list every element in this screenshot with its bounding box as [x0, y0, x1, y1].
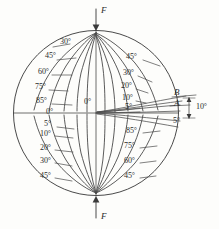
isoclinic-label-lr-45: 45° — [124, 172, 135, 180]
isoclinic-label-ll-10: 10° — [40, 130, 51, 138]
isoclinic-label-lr-75: 75° — [124, 142, 135, 150]
isoclinic-label-ll-5: 5° — [44, 120, 51, 128]
isoclinic-label-ur-20: 20° — [121, 82, 132, 90]
force-label-top: F — [101, 6, 106, 15]
isoclinic-label-ul-85: 85° — [36, 97, 47, 105]
isoclinic-label-ur-5: 5° — [125, 103, 132, 111]
isoclinic-label-ur-10: 10° — [122, 94, 133, 102]
axis-label-horizontal-zero: 0° — [46, 108, 53, 116]
detail-dimension-arrow — [183, 97, 195, 119]
isoclinic-label-ul-45: 45° — [45, 52, 56, 60]
isoclinic-label-ll-30: 30° — [40, 157, 51, 165]
isoclinic-label-ll-20: 20° — [40, 144, 51, 152]
isoclinic-label-lr-60: 60° — [124, 157, 135, 165]
detail-angle-label-5: 5° — [173, 117, 180, 125]
isoclinic-label-ul-60: 60° — [38, 68, 49, 76]
isoclinic-label-ll-45: 45° — [40, 172, 51, 180]
axis-label-vertical-zero: 0° — [84, 98, 91, 106]
isoclinic-label-ul-30: 30° — [60, 38, 71, 46]
detail-point-label-b: B — [174, 88, 179, 97]
isoclinic-disc-figure: F F 0° 0° 30° 45° 60° 75° 85° 45° 30° 20… — [0, 0, 219, 229]
isoclinic-label-ur-30: 30° — [123, 69, 134, 77]
figure-vector-graphics — [0, 0, 219, 229]
detail-point-label-a: A — [174, 99, 179, 108]
detail-angle-label-10: 10° — [196, 103, 207, 111]
force-label-bottom: F — [101, 212, 106, 221]
isoclinic-label-ur-45: 45° — [126, 53, 137, 61]
isoclinic-label-lr-85: 85° — [126, 127, 137, 135]
force-arrow-top — [93, 9, 100, 31]
isoclinic-label-ul-75: 75° — [35, 83, 46, 91]
force-arrow-bottom — [93, 196, 100, 218]
